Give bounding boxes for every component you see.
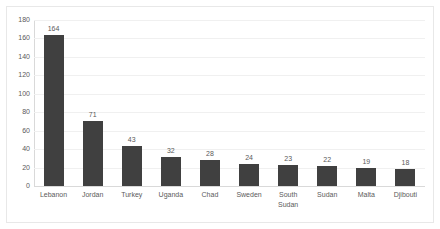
axis-baseline [34,186,425,187]
bar[interactable] [239,164,259,186]
bar-value-label: 164 [48,25,60,33]
bar-slot: 71 [73,20,112,186]
bar-value-label: 22 [323,156,331,164]
x-axis-category-label: Turkey [112,190,151,200]
bar-value-label: 24 [245,154,253,162]
bar-slot: 24 [230,20,269,186]
bar-value-label: 23 [284,155,292,163]
bar-slot: 18 [386,20,425,186]
bar-value-label: 71 [89,111,97,119]
bar-series: 164714332282423221918 [34,20,425,186]
y-axis-tick-label: 80 [4,108,30,116]
bar-value-label: 43 [128,136,136,144]
x-axis-category-label: South Sudan [269,190,308,209]
x-axis-category-label: Lebanon [34,190,73,200]
y-axis-tick-label: 60 [4,127,30,135]
bar[interactable] [200,160,220,186]
y-axis-tick-label: 100 [4,90,30,98]
bar-slot: 19 [347,20,386,186]
plot-area: 164714332282423221918 [34,20,425,186]
y-axis-tick-label: 160 [4,34,30,42]
y-axis-tick-label: 0 [4,182,30,190]
bar-slot: 32 [151,20,190,186]
y-axis-tick-label: 40 [4,145,30,153]
bar[interactable] [278,165,298,186]
bar-value-label: 19 [362,158,370,166]
y-axis-tick-label: 20 [4,164,30,172]
x-axis-category-label: Jordan [73,190,112,200]
y-axis-tick-label: 140 [4,53,30,61]
y-axis-tick-label: 120 [4,71,30,79]
x-axis-category-label: Uganda [151,190,190,200]
bar-slot: 23 [269,20,308,186]
bar-value-label: 18 [402,159,410,167]
bar-value-label: 28 [206,150,214,158]
bar[interactable] [356,168,376,186]
bar[interactable] [161,157,181,187]
y-axis-tick-label: 180 [4,16,30,24]
bar-slot: 28 [190,20,229,186]
x-axis-category-label: Malta [347,190,386,200]
bar-chart: 020406080100120140160180 164714332282423… [0,0,440,229]
x-axis-category-labels: LebanonJordanTurkeyUgandaChadSwedenSouth… [34,190,425,220]
x-axis-category-label: Sudan [308,190,347,200]
bar-slot: 22 [308,20,347,186]
x-axis-category-label: Chad [190,190,229,200]
bar-value-label: 32 [167,147,175,155]
x-axis-category-label: Djibouti [386,190,425,200]
x-axis-category-label: Sweden [230,190,269,200]
bar[interactable] [83,121,103,186]
bar-slot: 43 [112,20,151,186]
bar[interactable] [317,166,337,186]
bar[interactable] [395,169,415,186]
bar[interactable] [44,35,64,186]
bar[interactable] [122,146,142,186]
bar-slot: 164 [34,20,73,186]
y-axis-tick-labels: 020406080100120140160180 [0,20,30,186]
